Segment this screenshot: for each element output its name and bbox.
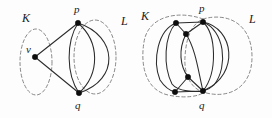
right-vertex-label-p: p (199, 3, 205, 14)
vertex-v (32, 54, 37, 59)
left-graph-panel (0, 0, 136, 118)
left-vertex-label-v: v (26, 44, 31, 55)
left-vertex-label-q: q (75, 100, 81, 111)
vertex-q (200, 88, 205, 93)
edge-p-q-right (78, 23, 109, 93)
vertex-d (172, 89, 177, 94)
right-vertex-label-q: q (199, 100, 205, 111)
edge-v-p (35, 23, 78, 57)
vertex-a (173, 20, 178, 25)
edge-v-q (35, 57, 79, 93)
edge-p-q-left (69, 23, 79, 93)
region-k-ellipse (20, 29, 52, 95)
vertex-p (200, 19, 205, 24)
left-region-label-l: L (121, 15, 128, 27)
edge-a-p (176, 22, 203, 23)
figure-root: K L v p q (0, 0, 272, 118)
vertex-c (185, 74, 190, 79)
vertex-q (76, 90, 81, 95)
edge-p-q-inner (203, 22, 214, 91)
left-region-label-k: K (22, 12, 30, 24)
edge-b-p (186, 22, 203, 34)
left-vertex-label-p: p (74, 4, 80, 15)
edge-p-q-middle (203, 22, 223, 91)
vertex-b (183, 31, 188, 36)
edge-p-q-middle (78, 23, 95, 93)
vertex-p (75, 20, 80, 25)
right-region-label-k: K (141, 10, 149, 22)
right-region-label-l: L (249, 13, 256, 25)
